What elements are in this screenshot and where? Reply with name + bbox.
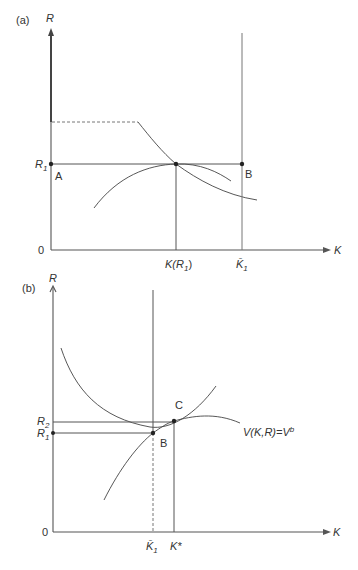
panel-a-origin-label: 0 xyxy=(38,244,44,256)
panel-b-x-arrow-icon xyxy=(323,529,331,535)
panel-a: (a) R K 0 R1 A B K(R1) K̄1 xyxy=(16,12,342,273)
panel-a-point-b-label: B xyxy=(245,168,252,180)
panel-a-point-b xyxy=(240,162,244,166)
panel-a-r1-label: R1 xyxy=(35,158,47,173)
panel-b-point-b-label: B xyxy=(160,437,167,449)
panel-a-k-r1-label: K(R1) xyxy=(165,258,192,273)
panel-b-curve-label: V(K,R)=Vb xyxy=(243,425,295,438)
panel-b: (b) R K 0 R2 R1 B C V(K,R)=Vb K̄1 K* xyxy=(22,272,341,555)
panel-b-origin-label: 0 xyxy=(42,526,48,538)
panel-b-u-curve xyxy=(61,348,216,427)
panel-a-point-a xyxy=(49,162,53,166)
panel-a-point-a-label: A xyxy=(55,170,63,182)
panel-b-tag: (b) xyxy=(22,282,35,294)
panel-b-point-b xyxy=(151,431,155,435)
panel-a-downward-curve xyxy=(138,122,257,200)
panel-a-k1bar-label: K̄1 xyxy=(236,258,248,273)
panel-a-y-arrow-icon xyxy=(48,28,54,36)
panel-b-value-curve xyxy=(104,416,240,500)
diagram-canvas: (a) R K 0 R1 A B K(R1) K̄1 (b) R xyxy=(0,0,358,570)
panel-a-hump-curve xyxy=(94,164,231,208)
panel-b-point-c xyxy=(172,419,176,423)
panel-b-y-axis-label: R xyxy=(49,272,57,284)
panel-a-x-axis-label: K xyxy=(334,244,342,256)
panel-b-point-c-label: C xyxy=(175,399,183,411)
panel-b-kstar-label: K* xyxy=(170,540,182,552)
panel-b-r1-dot xyxy=(51,431,55,435)
panel-b-x-axis-label: K xyxy=(333,526,341,538)
panel-a-tangent-point xyxy=(174,162,178,166)
panel-a-y-axis-label: R xyxy=(46,12,54,24)
panel-b-k1bar-label: K̄1 xyxy=(146,540,158,555)
panel-a-x-arrow-icon xyxy=(323,247,331,253)
panel-a-tag: (a) xyxy=(16,14,29,26)
